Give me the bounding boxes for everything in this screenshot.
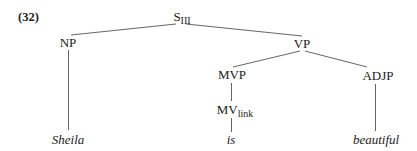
edge-vp-mvp [233,51,300,67]
node-subscript: III [181,15,191,26]
node-subscript: link [238,108,254,119]
node-label: MV [217,102,238,117]
node-vp: VP [294,37,311,51]
edge-vp-adjp [305,51,367,67]
node-s-iii: SIII [173,10,190,24]
node-mv-link: MVlink [217,103,254,117]
tree-edges [0,0,417,151]
word-sheila: Sheila [52,133,85,147]
node-np: NP [60,36,77,50]
edge-s-np [71,24,176,35]
node-mvp: MVP [218,68,246,82]
syntax-tree-diagram: (32) SIII NP VP MVP ADJP MVlink Sheila i… [0,0,417,151]
node-adjp: ADJP [362,69,393,83]
word-beautiful: beautiful [353,133,399,147]
word-is: is [227,133,236,147]
example-number: (32) [18,10,39,25]
edge-s-vp [186,24,302,36]
